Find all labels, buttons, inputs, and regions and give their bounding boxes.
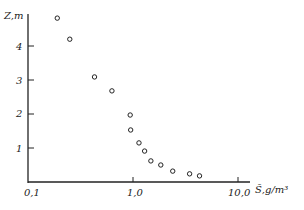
y-tick-label-2: 2 xyxy=(16,108,22,119)
x-tick-label-0-1: 0,1 xyxy=(24,187,40,198)
data-points xyxy=(55,16,202,178)
data-point xyxy=(171,169,175,173)
data-point xyxy=(187,172,191,176)
x-ticks xyxy=(133,177,238,182)
y-tick-label-3: 3 xyxy=(16,75,22,86)
data-point xyxy=(68,37,72,41)
x-tick-label-10-0: 10,0 xyxy=(228,187,250,198)
data-point xyxy=(110,89,114,93)
data-point xyxy=(159,163,163,167)
y-ticks xyxy=(28,46,34,148)
data-point xyxy=(128,128,132,132)
data-point xyxy=(149,159,153,163)
data-point xyxy=(55,16,59,20)
data-point xyxy=(197,174,201,178)
data-point xyxy=(92,75,96,79)
x-axis-label: S̄,g/m³ xyxy=(255,184,288,195)
data-point xyxy=(142,149,146,153)
scatter-plot xyxy=(0,0,304,210)
x-tick-label-1-0: 1,0 xyxy=(127,187,143,198)
data-point xyxy=(137,141,141,145)
y-tick-label-4: 4 xyxy=(16,41,22,52)
y-axis-label: Z,m xyxy=(4,10,23,21)
y-tick-label-1: 1 xyxy=(16,143,22,154)
data-point xyxy=(128,113,132,117)
